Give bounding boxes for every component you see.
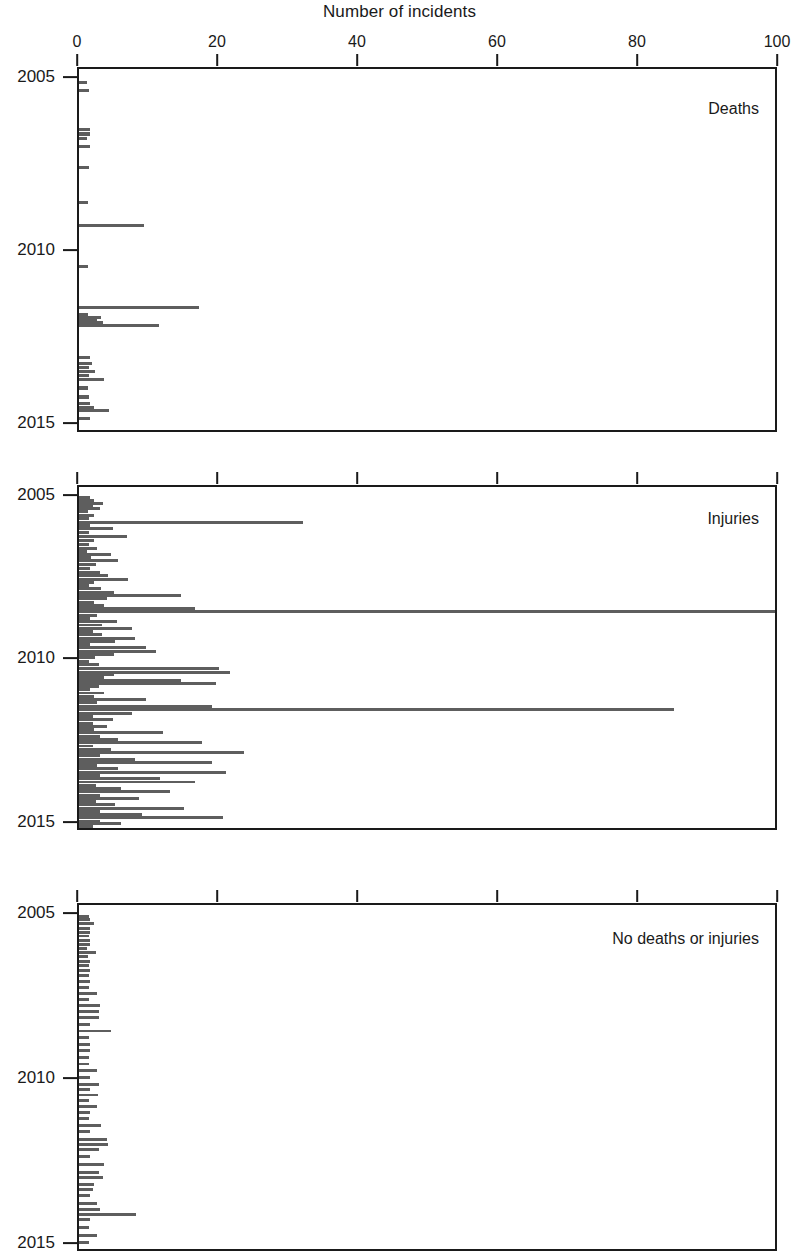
x-tick-mark [356, 472, 358, 484]
incidents-figure: Number of incidents 020406080100 Deaths … [0, 0, 799, 1254]
bar [79, 1218, 90, 1221]
bar [79, 1138, 107, 1141]
bar [79, 527, 113, 530]
y-tick-label: 2010 [0, 240, 55, 260]
bar [79, 1183, 94, 1186]
bar [79, 1016, 99, 1019]
bar [79, 1004, 100, 1007]
bar [79, 964, 89, 967]
bar [79, 663, 99, 666]
x-tick-mark [216, 54, 218, 66]
bar [79, 1105, 97, 1108]
bar [79, 931, 90, 934]
y-tick-mark [63, 1242, 77, 1244]
bar [79, 1163, 104, 1166]
bar [79, 386, 88, 389]
bar [79, 374, 89, 377]
x-tick-mark [356, 890, 358, 902]
y-tick-label: 2015 [0, 413, 55, 433]
bar [79, 145, 90, 148]
y-tick-mark [63, 494, 77, 496]
bar [79, 1130, 90, 1133]
bar [79, 751, 244, 754]
x-tick-label: 100 [764, 33, 791, 51]
bar [79, 935, 89, 938]
bar [79, 587, 101, 590]
panel-label-no-deaths-or-injuries: No deaths or injuries [612, 930, 759, 948]
panel-injuries: Injuries [77, 485, 777, 830]
y-tick-label: 2005 [0, 903, 55, 923]
x-tick-mark [776, 890, 778, 902]
bar [79, 974, 89, 977]
bar [79, 656, 95, 659]
bar [79, 306, 199, 309]
bar [79, 1226, 89, 1229]
x-tick-mark [636, 472, 638, 484]
bar [79, 265, 88, 268]
y-tick-label: 2005 [0, 67, 55, 87]
bar [79, 969, 90, 972]
y-tick-mark [63, 422, 77, 424]
y-tick-mark [63, 657, 77, 659]
bar [79, 137, 87, 140]
bar [79, 825, 93, 828]
bar [79, 1010, 99, 1013]
x-tick-mark [776, 472, 778, 484]
bar [79, 132, 90, 135]
bar [79, 362, 92, 365]
bar [79, 1069, 97, 1072]
bar [79, 378, 104, 381]
bar [79, 986, 89, 989]
bar [79, 610, 775, 613]
chart-title: Number of incidents [0, 2, 799, 22]
bar [79, 567, 90, 570]
bar [79, 918, 90, 921]
bar [79, 1213, 136, 1216]
y-tick-mark [63, 912, 77, 914]
plot-area-deaths [79, 69, 775, 430]
bar [79, 1241, 89, 1244]
bar [79, 1155, 90, 1158]
bar [79, 771, 226, 774]
bar [79, 409, 109, 412]
bar [79, 1088, 90, 1091]
bar [79, 1023, 90, 1026]
x-tick-mark [496, 54, 498, 66]
bar [79, 128, 90, 131]
y-tick-label: 2005 [0, 485, 55, 505]
bar [79, 927, 90, 930]
bar [79, 81, 87, 84]
bar [79, 1083, 99, 1086]
y-tick-mark [63, 249, 77, 251]
bar [79, 563, 96, 566]
bar [79, 1124, 101, 1127]
x-tick-mark [216, 472, 218, 484]
bar [79, 1056, 89, 1059]
bar [79, 1208, 100, 1211]
bar [79, 1234, 97, 1237]
bar [79, 1063, 89, 1066]
bar [79, 224, 144, 227]
bar [79, 922, 94, 925]
x-tick-mark [636, 54, 638, 66]
bar [79, 356, 90, 359]
bar [79, 955, 88, 958]
y-tick-label: 2010 [0, 1068, 55, 1088]
x-tick-mark [636, 890, 638, 902]
bar [79, 947, 87, 950]
y-tick-label: 2015 [0, 1233, 55, 1253]
bar [79, 201, 88, 204]
x-tick-mark [76, 890, 78, 902]
bar [79, 943, 90, 946]
plot-area-injuries [79, 487, 775, 828]
bar [79, 166, 89, 169]
x-tick-mark [76, 472, 78, 484]
bar [79, 1188, 93, 1191]
x-tick-mark [496, 890, 498, 902]
bar [79, 370, 95, 373]
bar [79, 682, 216, 685]
x-tick-mark [776, 54, 778, 66]
bar [79, 1036, 89, 1039]
bar [79, 781, 195, 784]
bar [79, 1099, 89, 1102]
